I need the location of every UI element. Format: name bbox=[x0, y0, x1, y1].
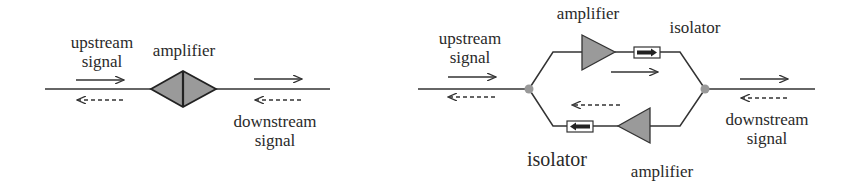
bottom-amplifier-icon bbox=[618, 108, 650, 143]
right-downstream-label: downstream signal bbox=[712, 110, 822, 148]
top-isolator-icon bbox=[634, 47, 660, 58]
left-downstream-label: downstream signal bbox=[220, 112, 330, 150]
splitter-node-left bbox=[525, 85, 534, 94]
left-bidirectional-amplifier-diagram bbox=[45, 71, 330, 107]
top-amplifier-icon bbox=[582, 35, 615, 70]
top-isolator-label: isolator bbox=[655, 18, 735, 37]
top-amplifier-label: amplifier bbox=[538, 4, 638, 23]
right-upstream-label: upstream signal bbox=[420, 29, 520, 67]
bottom-isolator-label: isolator bbox=[507, 150, 607, 169]
splitter-node-right bbox=[701, 85, 710, 94]
bottom-isolator-icon bbox=[567, 121, 593, 132]
left-amplifier-label: amplifier bbox=[134, 41, 234, 60]
bottom-amplifier-label: amplifier bbox=[612, 162, 712, 181]
